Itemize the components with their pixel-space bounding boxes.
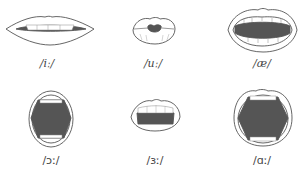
label-u-long: /uː/ [123,57,183,70]
mouth-i-long-figure [6,16,94,45]
mouth-er-long-figure [131,100,180,132]
mouth-a-long-figure [234,90,292,147]
label-open-o-long: /ɔː/ [21,154,81,167]
label-er-long: /ɜː/ [125,154,185,167]
label-ae: /æ/ [232,57,292,70]
mouth-ae-figure [228,9,297,53]
vowel-mouth-diagram [0,0,307,177]
mouth-u-long-figure [133,18,175,45]
mouth-open-o-long-figure [29,91,73,147]
label-i-long: /iː/ [17,57,77,70]
label-a-long: /ɑː/ [232,154,292,167]
